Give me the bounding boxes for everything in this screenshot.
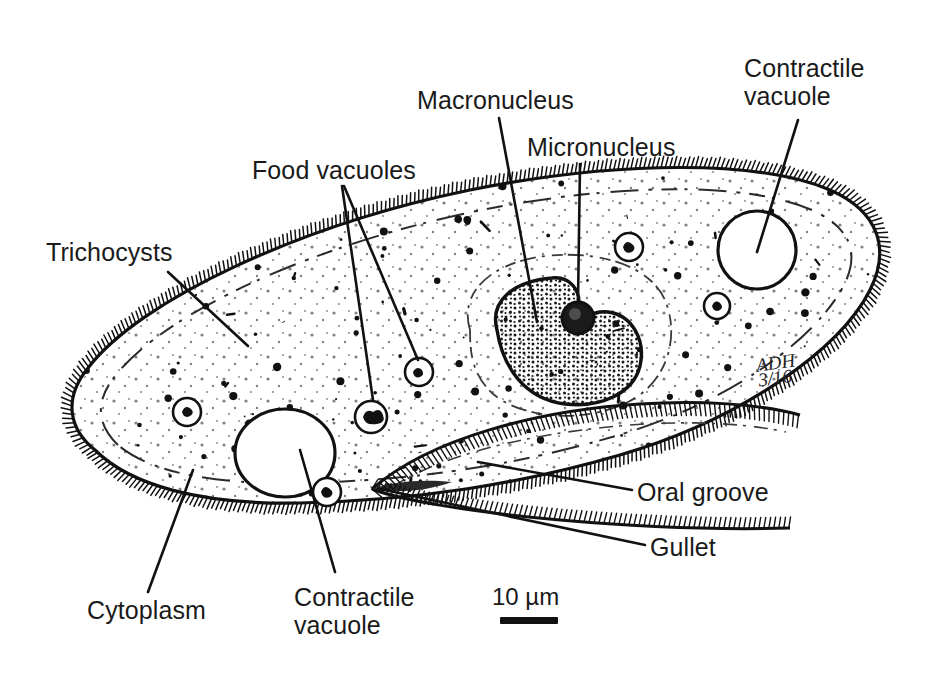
label-micronucleus: Micronucleus: [527, 133, 675, 161]
cytoplasm-stipple: [58, 150, 910, 530]
label-gullet: Gullet: [650, 533, 716, 561]
artist-signature: ADH 3/16: [755, 352, 798, 387]
food-vacuole: [405, 358, 433, 386]
micronucleus-shape: [562, 302, 594, 334]
food-vacuole: [615, 233, 643, 261]
label-cytoplasm: Cytoplasm: [87, 596, 206, 624]
food-vacuole: [173, 398, 201, 426]
label-trichocysts: Trichocysts: [46, 238, 173, 266]
paramecium-diagram-canvas: Trichocysts Food vacuoles Macronucleus M…: [0, 0, 931, 674]
food-vacuole: [313, 478, 341, 506]
food-vacuole: [704, 293, 730, 319]
label-oral-groove: Oral groove: [637, 478, 769, 506]
label-contractile-vacuole-top: Contractile vacuole: [744, 54, 865, 110]
label-food-vacuoles: Food vacuoles: [252, 156, 416, 184]
label-macronucleus: Macronucleus: [417, 86, 574, 114]
food-vacuole: [355, 401, 387, 433]
label-contractile-vacuole-bottom: Contractile vacuole: [294, 583, 415, 639]
scale-bar-label: 10 µm: [492, 583, 559, 611]
scale-bar: [500, 617, 558, 624]
